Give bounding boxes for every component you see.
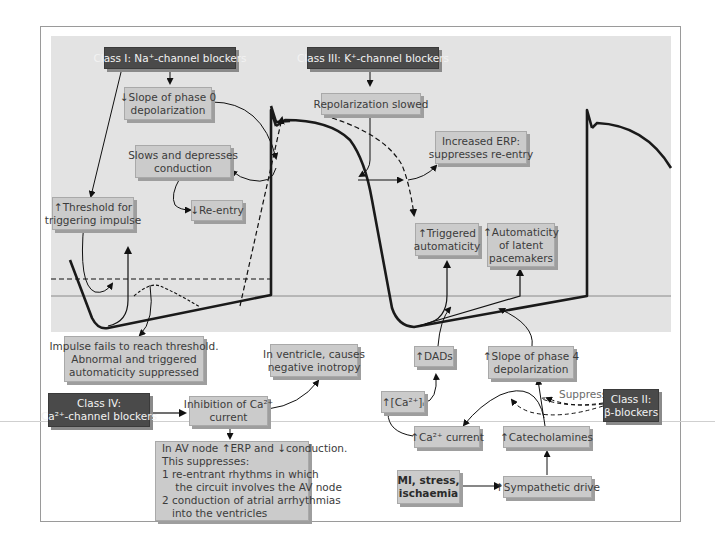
impulse-fails-text-3: automaticity suppressed	[69, 366, 199, 379]
av-node-effects-box: In AV node ↑ERP and ↓conduction. This su…	[155, 441, 309, 521]
threshold-box: ↑Threshold for triggering impulse	[52, 197, 134, 230]
class-2-label-2: β-blockers	[604, 406, 658, 419]
erp-text-1: Increased ERP:	[442, 135, 520, 148]
av-node-text-6: into the ventricles	[162, 507, 267, 520]
ca-current-box: ↑Ca²⁺ current	[414, 426, 480, 448]
threshold-text-1: ↑Threshold for	[54, 201, 132, 214]
increased-erp-box: Increased ERP: suppresses re-entry	[435, 131, 527, 164]
suppress-label: Suppress	[559, 388, 607, 400]
inhibition-text-1: Inhibition of Ca²⁺	[184, 398, 273, 411]
slope-phase-0-text-2: depolarization	[131, 104, 206, 117]
threshold-text-2: triggering impulse	[45, 214, 141, 227]
impulse-fails-text-2: Abnormal and triggered	[71, 353, 196, 366]
slope-phase-4-text-2: depolarization	[494, 363, 569, 376]
triggered-automaticity-box: ↑Triggered automaticity	[415, 223, 479, 256]
intracellular-calcium-text: ↑[Ca²⁺]ᵢ	[382, 396, 424, 409]
inhibition-ca-current-box: Inhibition of Ca²⁺ current	[189, 396, 268, 426]
inhibition-text-2: current	[210, 411, 248, 424]
av-node-text-1: In AV node ↑ERP and ↓conduction.	[162, 442, 347, 455]
latent-pacemakers-box: ↑Automaticity of latent pacemakers	[487, 223, 555, 267]
repolarization-slowed-box: Repolarization slowed	[321, 93, 421, 115]
class-2-label-1: Class II:	[611, 393, 652, 406]
class-4-label-1: Class IV:	[77, 397, 121, 410]
slope-phase-0-box: ↓Slope of phase 0 depolarization	[124, 87, 212, 120]
class-3-label: Class III: K⁺-channel blockers	[297, 52, 449, 65]
ventricle-text-2: negative inotropy	[268, 361, 361, 374]
class-2-beta-blockers-box: Class II: β-blockers	[603, 389, 659, 422]
slope-phase-0-text-1: ↓Slope of phase 0	[120, 91, 216, 104]
class-4-ca-channel-blockers-box: Class IV: Ca²⁺-channel blockers	[48, 393, 150, 427]
slows-conduction-text-2: conduction	[154, 162, 212, 175]
mi-text-2: ischaemia	[399, 487, 458, 500]
impulse-fails-box: Impulse fails to reach threshold. Abnorm…	[64, 336, 204, 382]
mi-stress-ischaemia-box: MI, stress, ischaemia	[397, 470, 460, 504]
latent-text-1: ↑Automaticity	[483, 226, 559, 239]
dads-text: ↑DADs	[415, 350, 452, 363]
sympathetic-drive-box: ↑Sympathetic drive	[503, 476, 592, 498]
catecholamines-box: ↑Catecholamines	[503, 426, 590, 448]
slope-phase-4-box: ↑Slope of phase 4 depolarization	[488, 346, 574, 379]
re-entry-text: ↓Re-entry	[190, 204, 244, 217]
negative-inotropy-box: In ventricle, causes negative inotropy	[270, 344, 358, 377]
av-node-text-4: the circuit involves the AV node	[162, 481, 342, 494]
av-node-text-2: This suppresses:	[162, 455, 249, 468]
class-4-label-2: Ca²⁺-channel blockers	[41, 410, 157, 423]
class-1-na-channel-blockers-box: Class I: Na⁺-channel blockers	[104, 47, 236, 69]
latent-text-2: of latent	[499, 239, 543, 252]
erp-text-2: suppresses re-entry	[429, 148, 533, 161]
slows-conduction-text-1: Slows and depresses	[128, 149, 238, 162]
triggered-text-1: ↑Triggered	[418, 227, 476, 240]
class-1-label: Class I: Na⁺-channel blockers	[93, 52, 246, 65]
impulse-fails-text-1: Impulse fails to reach threshold.	[50, 340, 219, 353]
repolarization-text: Repolarization slowed	[314, 98, 429, 111]
diagram-arrows-and-curves	[0, 0, 715, 558]
mi-text-1: MI, stress,	[397, 474, 459, 487]
sympathetic-text: ↑Sympathetic drive	[495, 481, 600, 494]
av-node-text-3: 1 re-entrant rhythms in which	[162, 468, 319, 481]
slope-phase-4-text-1: ↑Slope of phase 4	[483, 350, 579, 363]
ventricle-text-1: In ventricle, causes	[263, 348, 365, 361]
catecholamines-text: ↑Catecholamines	[500, 431, 593, 444]
latent-text-3: pacemakers	[489, 252, 553, 265]
ca-current-text: ↑Ca²⁺ current	[410, 431, 484, 444]
triggered-text-2: automaticity	[414, 240, 480, 253]
intracellular-calcium-box: ↑[Ca²⁺]ᵢ	[381, 391, 425, 413]
dads-box: ↑DADs	[414, 346, 454, 367]
av-node-text-5: 2 conduction of atrial arrhythmias	[162, 494, 341, 507]
re-entry-down-box: ↓Re-entry	[191, 200, 243, 221]
class-3-k-channel-blockers-box: Class III: K⁺-channel blockers	[307, 47, 439, 69]
slows-conduction-box: Slows and depresses conduction	[135, 145, 231, 178]
